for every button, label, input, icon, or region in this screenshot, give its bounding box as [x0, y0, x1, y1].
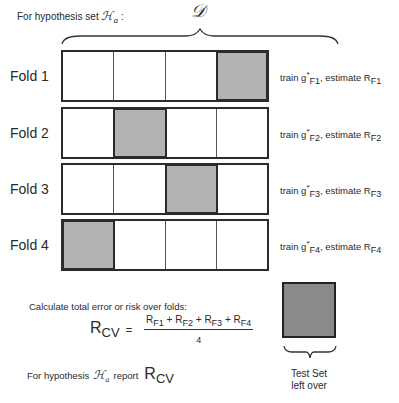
train-partition-cell	[217, 221, 267, 269]
denominator: 4	[196, 335, 201, 345]
fold-description: train g*F4, estimate RF4	[280, 239, 381, 255]
fold-label: Fold 1	[10, 68, 58, 84]
fold-description: train g*F1, estimate RF1	[280, 70, 381, 86]
test-partition-cell	[114, 109, 165, 157]
train-partition-cell	[166, 52, 217, 100]
fold-label: Fold 3	[10, 181, 58, 197]
report-line: For hypothesis ℋa report RCV	[27, 365, 174, 386]
fold-description: train g*F3, estimate RF3	[280, 183, 381, 199]
fold-label: Fold 4	[10, 237, 58, 253]
report-hypothesis-symbol: ℋa	[93, 368, 109, 384]
report-prefix: For hypothesis	[27, 370, 89, 381]
fraction: RF1 + RF2 + RF3 + RF4 4	[144, 314, 253, 345]
test-set-line2: left over	[282, 380, 336, 392]
train-partition-cell	[63, 165, 114, 213]
fold-label: Fold 2	[10, 125, 58, 141]
train-partition-cell	[114, 165, 165, 213]
rcv-lhs: RCV	[90, 319, 120, 340]
dataset-brace-icon	[60, 28, 340, 48]
train-partition-cell	[217, 165, 267, 213]
fold-row	[61, 163, 269, 215]
rcv-formula: RCV = RF1 + RF2 + RF3 + RF4 4	[90, 314, 253, 345]
report-middle: report	[114, 370, 139, 381]
calc-label: Calculate total error or risk over folds…	[29, 301, 187, 312]
train-partition-cell	[63, 52, 114, 100]
train-partition-cell	[166, 109, 217, 157]
hypothesis-symbol: ℋ	[101, 9, 113, 23]
equals-sign: =	[126, 324, 132, 336]
fold-row	[61, 219, 269, 271]
hypothesis-set-title: For hypothesis set ℋa :	[17, 9, 124, 25]
test-partition-cell	[166, 165, 217, 213]
train-partition-cell	[166, 221, 217, 269]
numerator: RF1 + RF2 + RF3 + RF4	[144, 314, 253, 330]
test-set-line1: Test Set	[282, 368, 336, 380]
title-prefix: For hypothesis set	[17, 11, 101, 22]
train-partition-cell	[114, 52, 165, 100]
test-set-label: Test Set left over	[282, 368, 336, 392]
fold-row	[61, 107, 269, 159]
test-partition-cell	[63, 221, 114, 269]
fold-description: train g*F2, estimate RF2	[280, 127, 381, 143]
title-suffix: :	[118, 11, 124, 22]
dataset-label: 𝒟	[191, 0, 205, 22]
fold-row	[61, 50, 269, 102]
report-rcv: RCV	[144, 365, 174, 386]
test-partition-cell	[217, 52, 267, 100]
test-set-box	[282, 282, 336, 338]
train-partition-cell	[63, 109, 114, 157]
test-set-brace-icon	[282, 344, 338, 360]
train-partition-cell	[217, 109, 267, 157]
train-partition-cell	[114, 221, 165, 269]
